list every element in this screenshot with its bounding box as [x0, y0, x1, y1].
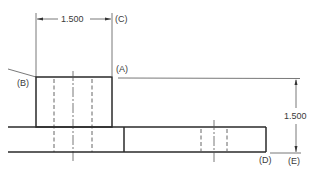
- horizontal-dimension-value: 1.500: [61, 14, 84, 24]
- callout-c: (C): [115, 14, 128, 24]
- base-plate: [8, 120, 266, 163]
- callout-a: (A): [116, 64, 128, 74]
- arrowhead-up-icon: [295, 79, 298, 85]
- callout-d: (D): [259, 155, 272, 165]
- arrowhead-down-icon: [295, 146, 298, 152]
- arrowhead-left-icon: [37, 18, 43, 21]
- horizontal-dimension: 1.500 (C): [36, 13, 128, 77]
- vertical-dimension: 1.500: [270, 79, 307, 153]
- arrowhead-right-icon: [105, 18, 111, 21]
- upper-boss: [36, 71, 112, 161]
- vertical-dimension-value: 1.500: [284, 111, 307, 121]
- callout-b: (B): [17, 78, 29, 88]
- extension-line-top: [118, 78, 300, 79]
- boss-outline: [36, 77, 112, 127]
- callout-e: (E): [288, 156, 300, 166]
- technical-drawing: 1.500 (C) (B) (A) 1.500 (D) (E): [0, 0, 314, 175]
- leader-line-b: [8, 69, 36, 77]
